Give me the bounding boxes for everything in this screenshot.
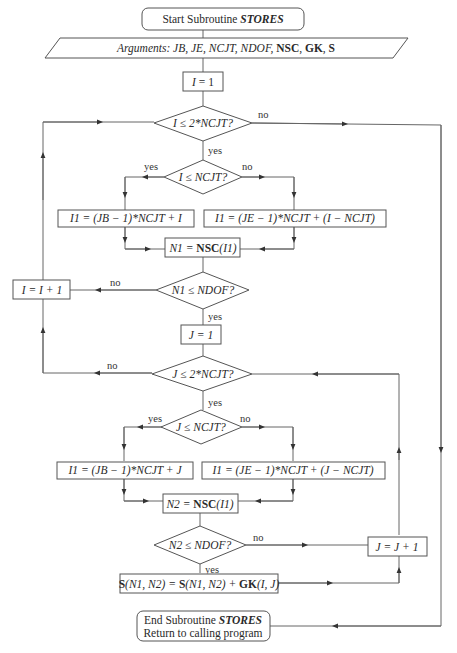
n2-arg: (I1) [216, 498, 233, 511]
init-i-process: I = 1 [183, 72, 223, 91]
edge-label-no: no [110, 277, 121, 288]
i1-right-j-label: I1 = (JE − 1)*NCJT + (J − NCJT) [211, 464, 373, 477]
decision-j-inner: J ≤ NCJT? [161, 410, 242, 444]
accumulate-process: S(N1, N2) = S(N1, N2) + GK(I, J) [119, 574, 280, 593]
end-subroutine-name: STORES [219, 614, 262, 626]
decision-j-inner-label: J ≤ NCJT? [176, 421, 226, 433]
edge-label-no: no [107, 360, 118, 371]
start-terminator: Start Subroutine STORES [142, 8, 304, 30]
arg-s: S [329, 42, 335, 54]
decision-n1: N1 ≤ NDOF? [156, 272, 249, 309]
svg-text:Arguments: JB, JE, NCJT, NDOF,: Arguments: JB, JE, NCJT, NDOF, NSC, GK, … [116, 42, 335, 55]
edge-label-no: no [242, 161, 253, 172]
svg-text:S(N1, N2) = S(N1, N2) + GK(I,: S(N1, N2) = S(N1, N2) + GK(I, J) [119, 578, 280, 591]
edge-label-yes: yes [208, 311, 222, 322]
i1-right-process: I1 = (JE − 1)*NCJT + (I − NCJT) [204, 210, 386, 227]
flowchart: Start Subroutine STORES Arguments: JB, J… [0, 0, 457, 653]
edge-label-no: no [258, 109, 269, 120]
increment-j-label: J = J + 1 [376, 541, 419, 553]
end-return-label: Return to calling program [143, 627, 262, 640]
decision-n1-label: N1 ≤ NDOF? [171, 284, 235, 296]
decision-n2: N2 ≤ NDOF? [154, 526, 246, 564]
increment-j-process: J = J + 1 [368, 537, 427, 556]
gk-term: GK [239, 578, 257, 590]
svg-text:I = 1: I = 1 [191, 76, 214, 88]
arguments-input: Arguments: JB, JE, NCJT, NDOF, NSC, GK, … [45, 38, 408, 58]
decision-i-inner: I ≤ NCJT? [164, 160, 242, 194]
svg-text:Start Subroutine STORES: Start Subroutine STORES [162, 13, 283, 25]
svg-text:End Subroutine STORES: End Subroutine STORES [144, 614, 262, 626]
start-label: Start Subroutine [162, 13, 240, 25]
decision-n2-label: N2 ≤ NDOF? [168, 539, 232, 551]
init-j-process: J = 1 [181, 325, 221, 344]
n2-lhs: N2 = [165, 498, 193, 510]
edge-label-yes: yes [148, 413, 162, 424]
decision-j-outer: J ≤ 2*NCJT? [152, 356, 252, 391]
edge-label-yes: yes [144, 161, 158, 172]
edge-label-no: no [253, 532, 264, 543]
decision-j-outer-label: J ≤ 2*NCJT? [172, 368, 234, 380]
decision-i-outer: I ≤ 2*NCJT? [154, 106, 252, 141]
arguments-scalars: JB, JE, NCJT, NDOF, [173, 42, 276, 55]
init-j-label: J = 1 [189, 329, 213, 341]
decision-i-outer-label: I ≤ 2*NCJT? [172, 117, 233, 129]
i1-right-label: I1 = (JE − 1)*NCJT + (I − NCJT) [214, 212, 375, 225]
arg-nsc: NSC [276, 42, 299, 54]
n1-assign-process: N1 = NSC(I1) [165, 238, 240, 257]
end-label: End Subroutine [144, 614, 219, 626]
i1-left-j-process: I1 = (JB − 1)*NCJT + J [57, 462, 193, 479]
end-terminator: End Subroutine STORES Return to calling … [137, 611, 270, 641]
n1-arg: (I1) [219, 242, 236, 255]
subroutine-name: STORES [240, 13, 283, 25]
s-args-2: (N1, N2) + [185, 578, 239, 591]
arg-gk: GK [305, 42, 323, 54]
i1-left-j-label: I1 = (JB − 1)*NCJT + J [67, 464, 182, 477]
i1-left-process: I1 = (JB − 1)*NCJT + I [58, 210, 194, 227]
svg-text:N1 = NSC(I1): N1 = NSC(I1) [168, 242, 236, 255]
init-i-op: = [196, 76, 208, 88]
n1-func: NSC [196, 242, 219, 254]
init-i-rhs: 1 [208, 76, 214, 88]
arguments-prefix: Arguments: [116, 42, 173, 55]
edge-label-yes: yes [208, 145, 222, 156]
i1-left-label: I1 = (JB − 1)*NCJT + I [69, 212, 183, 225]
increment-i-process: I = I + 1 [13, 280, 70, 299]
edge-label-yes: yes [208, 397, 222, 408]
decision-i-inner-label: I ≤ NCJT? [178, 171, 228, 183]
svg-text:N2 = NSC(I1): N2 = NSC(I1) [165, 498, 233, 511]
gk-args: (I, J) [257, 578, 280, 591]
n1-lhs: N1 = [168, 242, 196, 254]
s-args-1: (N1, N2) = [125, 578, 179, 591]
n2-func: NSC [193, 498, 216, 510]
increment-i-label: I = I + 1 [21, 284, 62, 296]
edge-label-yes: yes [205, 564, 219, 575]
n2-assign-process: N2 = NSC(I1) [163, 494, 238, 513]
edge-label-no: no [240, 413, 251, 424]
i1-right-j-process: I1 = (JE − 1)*NCJT + (J − NCJT) [202, 462, 385, 479]
